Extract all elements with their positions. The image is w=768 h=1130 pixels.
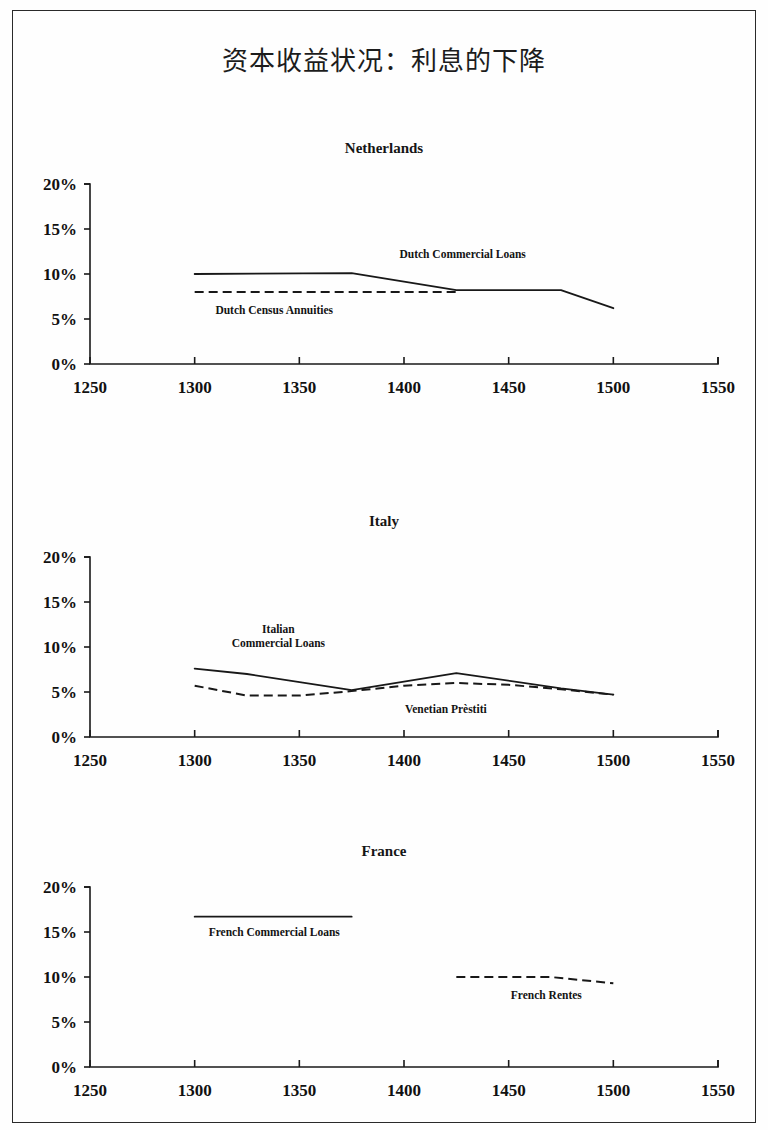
chart-title-france: France	[14, 843, 754, 860]
series-annotation-italian-commercial-loans: Commercial Loans	[232, 637, 326, 649]
chart-axes	[90, 184, 718, 364]
y-tick-label: 5%	[52, 683, 78, 702]
y-tick-label: 20%	[43, 175, 77, 194]
x-tick-label: 1350	[282, 1081, 316, 1100]
x-tick-label: 1450	[492, 1081, 526, 1100]
series-annotation-venetian-pr-stiti: Venetian Prèstiti	[405, 703, 487, 715]
x-tick-label: 1250	[73, 1081, 107, 1100]
x-tick-label: 1500	[596, 378, 630, 397]
x-tick-label: 1400	[387, 1081, 421, 1100]
scanned-page: 资本收益状况：利息的下降 Netherlands 0%5%10%15%20%12…	[0, 0, 768, 1130]
chart-svg-france: 0%5%10%15%20%125013001350140014501500155…	[14, 861, 754, 1129]
series-annotation-french-commercial-loans: French Commercial Loans	[209, 926, 341, 938]
series-line-italian-commercial-loans	[195, 669, 614, 695]
y-tick-label: 15%	[43, 220, 77, 239]
chart-title-netherlands: Netherlands	[14, 140, 754, 157]
y-tick-label: 15%	[43, 923, 77, 942]
y-tick-label: 0%	[52, 728, 78, 747]
series-line-venetian-pr-stiti	[195, 683, 614, 696]
series-line-french-rentes	[456, 977, 613, 983]
x-tick-label: 1250	[73, 751, 107, 770]
y-tick-label: 20%	[43, 878, 77, 897]
x-tick-label: 1400	[387, 378, 421, 397]
x-tick-label: 1550	[701, 1081, 735, 1100]
chart-svg-netherlands: 0%5%10%15%20%125013001350140014501500155…	[14, 158, 754, 426]
series-annotation-italian-commercial-loans: Italian	[262, 623, 295, 635]
x-tick-label: 1350	[282, 751, 316, 770]
x-tick-label: 1450	[492, 378, 526, 397]
x-tick-label: 1300	[178, 751, 212, 770]
x-tick-label: 1350	[282, 378, 316, 397]
series-annotation-french-rentes: French Rentes	[511, 989, 583, 1001]
y-tick-label: 5%	[52, 1013, 78, 1032]
chart-axes	[90, 557, 718, 737]
y-tick-label: 5%	[52, 310, 78, 329]
page-title: 资本收益状况：利息的下降	[0, 40, 768, 77]
y-tick-label: 10%	[43, 638, 77, 657]
x-tick-label: 1400	[387, 751, 421, 770]
x-tick-label: 1500	[596, 751, 630, 770]
series-annotation-dutch-commercial-loans: Dutch Commercial Loans	[399, 248, 526, 260]
y-tick-label: 0%	[52, 1058, 78, 1077]
y-tick-label: 10%	[43, 265, 77, 284]
x-tick-label: 1450	[492, 751, 526, 770]
y-tick-label: 15%	[43, 593, 77, 612]
x-tick-label: 1300	[178, 378, 212, 397]
x-tick-label: 1300	[178, 1081, 212, 1100]
y-tick-label: 20%	[43, 548, 77, 567]
x-tick-label: 1500	[596, 1081, 630, 1100]
x-tick-label: 1550	[701, 378, 735, 397]
chart-title-italy: Italy	[14, 513, 754, 530]
x-tick-label: 1250	[73, 378, 107, 397]
chart-svg-italy: 0%5%10%15%20%125013001350140014501500155…	[14, 531, 754, 799]
x-tick-label: 1550	[701, 751, 735, 770]
chart-axes	[90, 887, 718, 1067]
y-tick-label: 10%	[43, 968, 77, 987]
series-annotation-dutch-census-annuities: Dutch Census Annuities	[215, 304, 333, 316]
y-tick-label: 0%	[52, 355, 78, 374]
